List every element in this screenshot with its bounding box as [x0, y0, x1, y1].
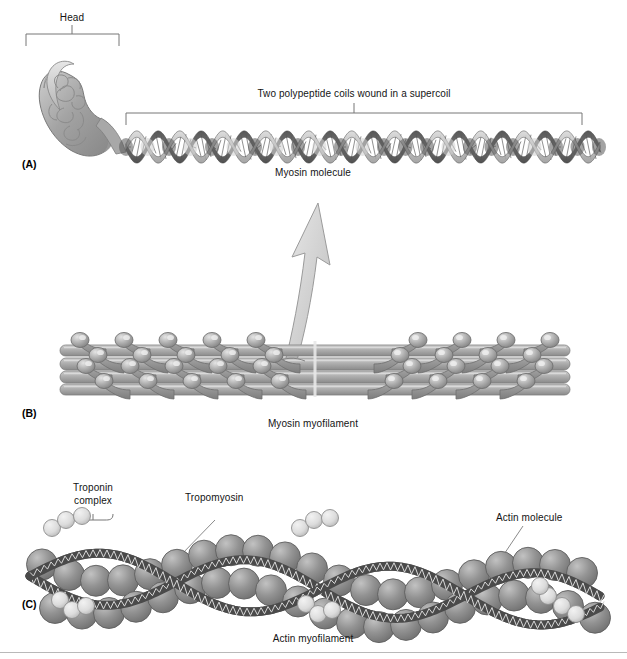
panel-a-caption: Myosin molecule	[275, 167, 351, 179]
actin-molecule-label: Actin molecule	[496, 512, 562, 524]
troponin-complex	[322, 510, 339, 527]
actin-myofilament	[27, 508, 611, 643]
supercoil-strands	[119, 131, 606, 163]
myosin-head	[39, 61, 113, 156]
head-bracket-label: Head	[60, 12, 84, 24]
troponin-complex	[568, 606, 585, 623]
actin-molecule	[351, 575, 382, 606]
tropomyosin-label: Tropomyosin	[185, 492, 244, 504]
actin-molecule	[499, 580, 530, 611]
troponin-complex	[58, 512, 75, 529]
actin-molecule	[81, 565, 112, 596]
troponin-complex	[532, 578, 549, 595]
myosin-myofilament	[60, 333, 570, 400]
panel-c-id: (C)	[22, 598, 37, 610]
panel-b-id: (B)	[22, 407, 37, 419]
supercoil-bracket-label: Two polypeptide coils wound in a superco…	[257, 88, 450, 100]
panel-b-graphics	[0, 195, 627, 425]
zoom-arrow	[284, 203, 330, 367]
troponin-complex	[74, 508, 91, 525]
head-bracket	[26, 25, 119, 46]
troponin-complex	[306, 512, 323, 529]
supercoil-bracket	[126, 103, 582, 125]
actin-molecule	[378, 579, 409, 610]
troponin-complex-label: Troponin complex	[73, 481, 113, 507]
panel-c-caption: Actin myofilament	[273, 633, 354, 645]
troponin-complex	[324, 602, 341, 619]
troponin-line1: Troponin	[73, 482, 113, 493]
actin-molecule	[229, 568, 260, 599]
actin-molecule	[256, 575, 287, 606]
myofilament-figure: (A) Head Two polypeptide coils wound in …	[0, 0, 627, 659]
panel-b-caption: Myosin myofilament	[268, 418, 358, 430]
troponin-line2: complex	[74, 495, 112, 506]
panel-a-id: (A)	[22, 158, 37, 170]
bottom-divider	[0, 652, 627, 653]
troponin-complex	[78, 598, 95, 615]
